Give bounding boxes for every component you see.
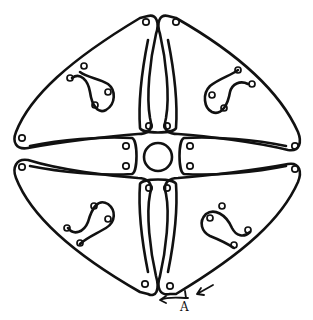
diagram-canvas: A (0, 0, 313, 320)
center-circle (144, 143, 172, 171)
label-a: A (180, 300, 189, 314)
outer-loop-top-right (158, 16, 299, 151)
inner-spiral-top-left (67, 63, 114, 111)
inner-arm-left (30, 137, 137, 174)
inner-arm-top (139, 40, 176, 133)
inner-spiral-bottom-right (202, 203, 251, 248)
tick-mark-a (185, 291, 186, 298)
outer-loop-bottom-right (158, 164, 299, 295)
inner-spiral-bottom-left (64, 202, 114, 246)
inner-arm-right (180, 137, 287, 174)
inner-spiral-top-right (205, 67, 255, 113)
terminal-rings (19, 19, 298, 289)
knot-diagram (0, 0, 313, 320)
arrow-toward-a (197, 285, 213, 295)
inner-arm-bottom (139, 180, 176, 273)
